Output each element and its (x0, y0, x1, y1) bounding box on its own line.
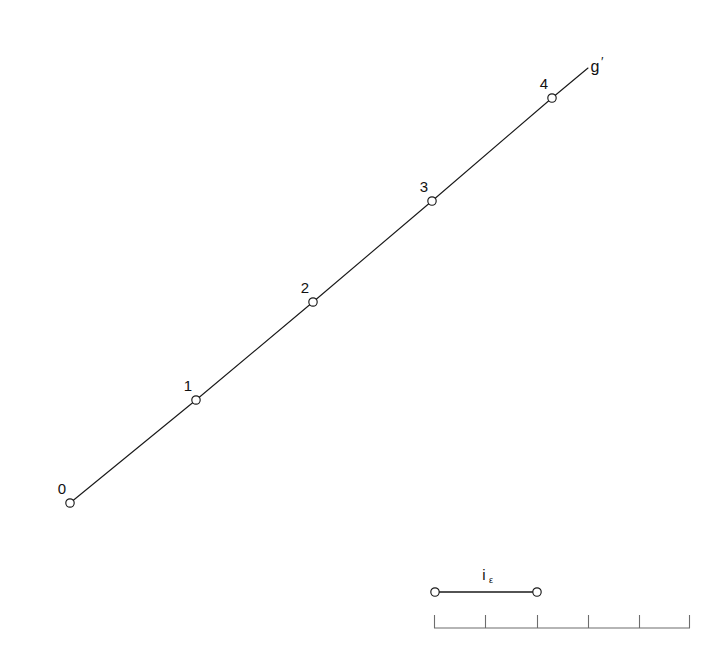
data-point-marker-2[interactable] (309, 298, 317, 306)
curve-label-g: g (591, 58, 600, 75)
plot-background (0, 0, 708, 664)
plot-svg: 0 1 2 3 4 g ′ i ε (0, 0, 708, 664)
scale-bar-endpoint-left (431, 588, 439, 596)
scale-bar-label: i (482, 566, 485, 583)
scale-bar-label-subscript: ε (489, 575, 493, 585)
data-point-label-4: 4 (540, 75, 548, 92)
data-point-label-3: 3 (420, 178, 428, 195)
data-point-label-0: 0 (58, 480, 66, 497)
data-point-label-1: 1 (184, 377, 192, 394)
scale-bar-endpoint-right (533, 588, 541, 596)
figure-canvas: 0 1 2 3 4 g ′ i ε (0, 0, 708, 664)
data-point-marker-1[interactable] (192, 396, 200, 404)
data-point-marker-0[interactable] (66, 499, 74, 507)
data-point-label-2: 2 (301, 279, 309, 296)
data-point-marker-3[interactable] (428, 197, 436, 205)
data-point-marker-4[interactable] (548, 94, 556, 102)
